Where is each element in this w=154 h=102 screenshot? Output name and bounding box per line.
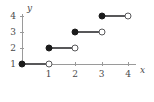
y-axis-line: [22, 14, 23, 65]
y-axis-label: y: [27, 4, 32, 13]
y-tick-mark-4: [20, 16, 24, 17]
x-tick-label-3: 3: [99, 70, 105, 79]
step-3-open-endpoint: [98, 29, 105, 36]
x-axis-label: x: [140, 66, 145, 75]
x-tick-mark-4: [128, 62, 129, 66]
step-1-closed-endpoint: [19, 61, 26, 68]
x-tick-label-1: 1: [46, 70, 52, 79]
x-tick-label-2: 2: [72, 70, 78, 79]
step-3-closed-endpoint: [72, 29, 79, 36]
x-tick-mark-3: [102, 62, 103, 66]
step-4-open-endpoint: [125, 13, 132, 20]
y-tick-mark-3: [20, 32, 24, 33]
y-tick-label-1: 1: [8, 60, 16, 69]
step-2-open-endpoint: [72, 45, 79, 52]
step-4-closed-endpoint: [98, 13, 105, 20]
x-tick-label-4: 4: [125, 70, 131, 79]
y-tick-label-3: 3: [8, 28, 16, 37]
y-tick-mark-2: [20, 48, 24, 49]
step-function-chart: y x 1 2 3 4 1 2 3 4: [0, 0, 154, 102]
y-tick-label-2: 2: [8, 44, 16, 53]
y-tick-label-4: 4: [8, 12, 16, 21]
step-1-open-endpoint: [45, 61, 52, 68]
step-2-closed-endpoint: [45, 45, 52, 52]
x-tick-mark-2: [75, 62, 76, 66]
